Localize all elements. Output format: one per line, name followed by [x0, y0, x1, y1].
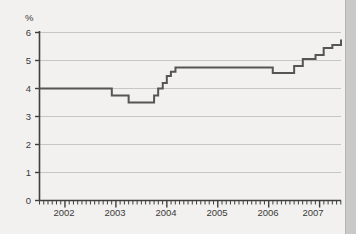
x-tick-label-2004: 2004	[155, 207, 176, 218]
x-tick-label-2005: 2005	[206, 207, 227, 218]
chart-canvas: % 6 5 4 3 2 1 0 2002 2003 2004 2005 2006…	[0, 0, 346, 234]
y-tick-label-0: 0	[26, 195, 31, 206]
y-tick-label-2: 2	[26, 139, 31, 150]
page-gutter	[345, 0, 356, 234]
line-chart: % 6 5 4 3 2 1 0 2002 2003 2004 2005 2006…	[0, 0, 346, 234]
x-tick-label-2002: 2002	[53, 207, 74, 218]
y-tick-label-3: 3	[26, 111, 31, 122]
x-tick-label-2006: 2006	[257, 207, 278, 218]
y-tick-label-4: 4	[26, 83, 31, 94]
x-tick-label-2007: 2007	[302, 207, 323, 218]
y-tick-label-6: 6	[26, 27, 31, 38]
y-axis-unit-label: %	[25, 12, 34, 23]
chart-page: % 6 5 4 3 2 1 0 2002 2003 2004 2005 2006…	[0, 0, 356, 234]
x-tick-label-2003: 2003	[104, 207, 125, 218]
y-tick-label-5: 5	[26, 55, 31, 66]
y-tick-label-1: 1	[26, 167, 31, 178]
